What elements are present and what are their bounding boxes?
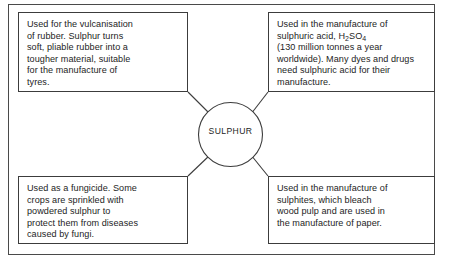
connector-top-left xyxy=(188,92,210,114)
formula-subscript-4: 4 xyxy=(362,34,366,41)
fact-text-vulcanisation: Used for the vulcanisation of rubber. Su… xyxy=(27,19,180,89)
connector-bottom-right xyxy=(251,155,268,176)
sulphur-uses-diagram: SULPHUR Used for the vulcanisation of ru… xyxy=(0,0,451,267)
formula-so: SO xyxy=(349,31,362,41)
connector-top-right xyxy=(251,92,268,114)
fact-text-part-after-formula: (130 million tonnes a year worldwide). M… xyxy=(277,42,414,87)
fact-box-sulphites: Used in the manufacture of sulphites, wh… xyxy=(268,176,435,244)
fact-text-sulphites: Used in the manufacture of sulphites, wh… xyxy=(277,183,427,229)
fact-box-fungicide: Used as a fungicide. Some crops are spri… xyxy=(18,176,188,244)
centre-label: SULPHUR xyxy=(198,126,263,136)
fact-box-sulphuric-acid: Used in the manufacture of sulphuric aci… xyxy=(268,12,435,92)
connector-bottom-left xyxy=(188,155,210,176)
fact-text-fungicide: Used as a fungicide. Some crops are spri… xyxy=(27,183,180,241)
fact-text-part-before-formula: Used in the manufacture of sulphuric aci… xyxy=(277,19,388,41)
fact-box-vulcanisation: Used for the vulcanisation of rubber. Su… xyxy=(18,12,188,92)
fact-text-sulphuric-acid: Used in the manufacture of sulphuric aci… xyxy=(277,19,427,89)
